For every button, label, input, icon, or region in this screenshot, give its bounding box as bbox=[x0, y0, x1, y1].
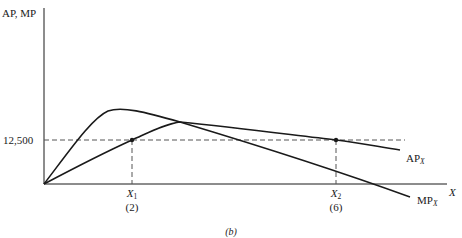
point-x1 bbox=[130, 138, 134, 142]
ap-series-label: APX bbox=[406, 153, 425, 166]
chart-canvas bbox=[0, 0, 462, 238]
figure-caption: (b) bbox=[225, 227, 237, 237]
x-axis-label: X bbox=[449, 187, 456, 198]
ap-name: AP bbox=[406, 152, 420, 164]
x1-value: (2) bbox=[126, 202, 139, 213]
x2-value: (6) bbox=[330, 202, 343, 213]
mp-name: MP bbox=[417, 194, 433, 206]
x1-name: X bbox=[127, 187, 134, 199]
mp-sub: X bbox=[433, 199, 438, 208]
x2-name: X bbox=[331, 187, 338, 199]
mp-series-label: MPX bbox=[417, 195, 438, 208]
ap-sub: X bbox=[420, 157, 425, 166]
x1-sub: 1 bbox=[133, 192, 137, 201]
x2-label: X2 bbox=[331, 188, 341, 201]
y-axis-label: AP, MP bbox=[2, 8, 36, 19]
ref-value-label: 12,500 bbox=[3, 135, 33, 146]
x1-label: X1 bbox=[127, 188, 137, 201]
point-x2 bbox=[334, 138, 338, 142]
x2-sub: 2 bbox=[337, 192, 341, 201]
